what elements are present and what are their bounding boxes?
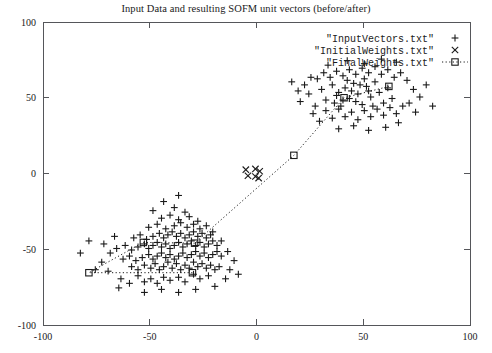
series-1: [243, 166, 263, 181]
x-tick-label: 0: [254, 331, 259, 342]
y-tick-label: 50: [26, 92, 36, 103]
legend-label-2: "FinalWeights.txt": [326, 58, 434, 69]
y-tick-label: 0: [31, 168, 36, 179]
x-tick-label: 50: [358, 331, 368, 342]
y-tick-label: -50: [23, 244, 36, 255]
x-tick-label: -50: [143, 331, 156, 342]
legend-label-1: "InitialWeights.txt": [314, 46, 434, 57]
y-tick-label: -100: [18, 320, 36, 331]
legend-label-0: "InputVectors.txt": [326, 34, 434, 45]
x-tick-label: -100: [34, 331, 52, 342]
weight-path: [89, 86, 389, 272]
plot-area: -100-50050100-100-50050100"InputVectors.…: [0, 0, 492, 353]
chart-root: Input Data and resulting SOFM unit vecto…: [0, 0, 492, 353]
marker-square: [189, 270, 195, 276]
legend: "InputVectors.txt""InitialWeights.txt""F…: [314, 34, 468, 69]
x-tick-label: 100: [463, 331, 478, 342]
y-tick-label: 100: [21, 17, 36, 28]
